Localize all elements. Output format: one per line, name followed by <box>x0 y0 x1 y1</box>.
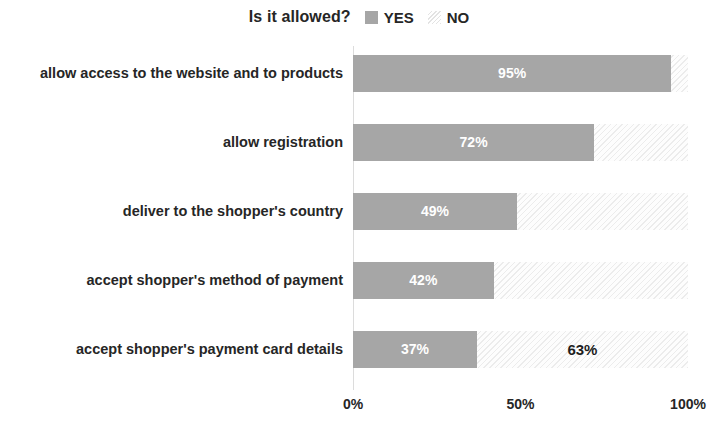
bar-row: 42% <box>353 262 688 299</box>
legend-label-no: NO <box>447 9 470 26</box>
category-label: deliver to the shopper's country <box>13 193 353 230</box>
bar-value-label-no <box>671 55 688 92</box>
bar-value-label-yes: 72% <box>353 124 594 161</box>
bar-row: 49% <box>353 193 688 230</box>
hatched-square-icon <box>428 11 441 24</box>
axis-tick-label: 100% <box>670 396 706 412</box>
bar-row: 95% <box>353 55 688 92</box>
category-axis: allow access to the website and to produ… <box>0 46 353 390</box>
bar-value-label-yes: 42% <box>353 262 494 299</box>
chart-header: Is it allowed? YES NO <box>0 8 718 26</box>
category-label: accept shopper's method of payment <box>13 262 353 299</box>
value-axis: 0% 50% 100% <box>353 396 688 420</box>
bar-row: 37% 63% <box>353 331 688 368</box>
chart-title: Is it allowed? <box>249 8 351 26</box>
bar-row: 72% <box>353 124 688 161</box>
legend-entry-yes: YES <box>365 9 414 26</box>
bar-chart: Is it allowed? YES NO allow access to th… <box>0 0 718 448</box>
bar-value-label-no <box>517 193 688 230</box>
bar-value-label-no <box>594 124 688 161</box>
axis-tick-label: 0% <box>343 396 363 412</box>
bar-value-label-yes: 49% <box>353 193 517 230</box>
bar-value-label-yes: 37% <box>353 331 477 368</box>
bar-value-label-no <box>494 262 688 299</box>
bar-value-label-no: 63% <box>477 331 688 368</box>
axis-tick-label: 50% <box>506 396 534 412</box>
bar-value-label-yes: 95% <box>353 55 671 92</box>
solid-square-icon <box>365 11 378 24</box>
category-label: allow access to the website and to produ… <box>13 55 353 92</box>
category-label: accept shopper's payment card details <box>13 331 353 368</box>
plot-area: 95% 72% 49% 42% 37% 63% <box>353 46 688 390</box>
category-label: allow registration <box>13 124 353 161</box>
legend-entry-no: NO <box>428 9 470 26</box>
chart-legend: YES NO <box>365 9 470 26</box>
legend-label-yes: YES <box>384 9 414 26</box>
